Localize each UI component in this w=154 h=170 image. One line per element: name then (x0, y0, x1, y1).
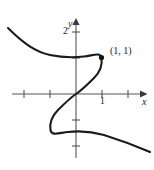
y-axis-label: y (68, 19, 72, 29)
point-marker-1-1 (99, 55, 104, 60)
y-axis-arrow-icon (72, 18, 79, 25)
x-tick-label-1: 1 (100, 97, 105, 107)
x-axis-label: x (142, 97, 146, 107)
y-tick-label-2: 2 (63, 27, 68, 37)
plot-svg (0, 0, 154, 170)
figure-container: y x 2 1 (1, 1) (0, 0, 154, 170)
point-label-1-1: (1, 1) (110, 46, 132, 56)
